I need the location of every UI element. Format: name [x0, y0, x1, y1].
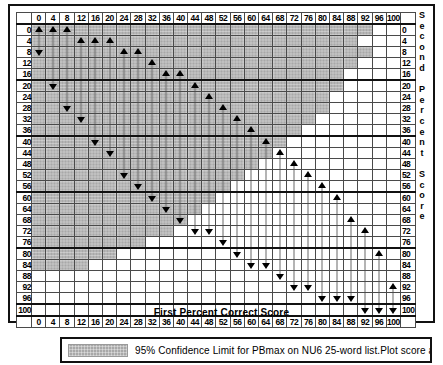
matrix-cell [344, 293, 358, 305]
matrix-cell [74, 36, 88, 47]
marker-stem [152, 170, 153, 180]
axis-title-char: r [415, 105, 429, 116]
matrix-cell [273, 271, 287, 282]
marker-stem [123, 69, 124, 79]
matrix-plot: 0481216202428323640444852566064687276808… [16, 12, 416, 328]
column-tick-32: 32 [145, 13, 159, 25]
matrix-cell [358, 181, 372, 193]
legend-box: 95% Confidence Limit for PBmax on NU6 25… [60, 337, 432, 363]
matrix-cell [315, 36, 329, 47]
marker-stem [322, 249, 323, 259]
matrix-cell [173, 80, 187, 92]
matrix-cell [386, 92, 400, 103]
matrix-cell [372, 271, 386, 282]
matrix-cell [372, 237, 386, 249]
matrix-cell [244, 248, 258, 260]
matrix-cell [145, 215, 159, 226]
matrix-cell [102, 159, 116, 170]
matrix-cell [329, 92, 343, 103]
marker-stem [137, 103, 138, 113]
matrix-cell [244, 215, 258, 226]
matrix-cell [74, 47, 88, 58]
matrix-cell [60, 204, 74, 215]
axis-title-char [415, 158, 429, 169]
matrix-cell [173, 260, 187, 271]
matrix-cell [287, 80, 301, 92]
row-tick-right-4: 4 [400, 36, 415, 47]
upper-limit-marker-icon [148, 59, 156, 65]
row-tick-right-36: 36 [400, 125, 415, 137]
matrix-cell [230, 237, 244, 249]
matrix-cell [287, 103, 301, 114]
marker-stem [166, 125, 167, 135]
marker-stem [52, 47, 53, 57]
matrix-cell [74, 69, 88, 81]
marker-stem [194, 137, 195, 147]
matrix-cell [315, 114, 329, 125]
matrix-cell [273, 136, 287, 148]
upper-limit-marker-icon [233, 115, 241, 121]
marker-stem [251, 170, 252, 180]
marker-stem [95, 92, 96, 102]
matrix-cell [88, 181, 102, 193]
matrix-row: 8484 [17, 260, 416, 271]
row-tick-left-36: 36 [17, 125, 32, 137]
marker-stem [336, 204, 337, 214]
matrix-cell [315, 271, 329, 282]
matrix-cell [145, 47, 159, 58]
marker-stem [152, 114, 153, 124]
matrix-cell [46, 260, 60, 271]
matrix-cell [131, 248, 145, 260]
matrix-cell [32, 92, 46, 103]
matrix-cell [188, 293, 202, 305]
axis-title-char: e [415, 95, 429, 106]
column-tick-24: 24 [117, 13, 131, 25]
matrix-cell [159, 148, 173, 159]
matrix-cell [88, 114, 102, 125]
matrix-cell [60, 80, 74, 92]
matrix-cell [216, 248, 230, 260]
matrix-cell [372, 92, 386, 103]
matrix-cell [344, 125, 358, 137]
x-axis-title: First Percent Correct Score [10, 307, 433, 318]
matrix-cell [159, 170, 173, 181]
matrix-cell [216, 103, 230, 114]
matrix-cell [230, 36, 244, 47]
matrix-cell [287, 282, 301, 293]
marker-stem [308, 181, 309, 191]
matrix-cell [46, 47, 60, 58]
marker-stem [379, 271, 380, 281]
matrix-cell [145, 204, 159, 215]
marker-stem [166, 159, 167, 169]
matrix-cell [259, 92, 273, 103]
matrix-cell [301, 159, 315, 170]
matrix-cell [60, 215, 74, 226]
matrix-cell [32, 36, 46, 47]
matrix-row: 9696 [17, 293, 416, 305]
matrix-cell [159, 114, 173, 125]
matrix-cell [301, 148, 315, 159]
marker-stem [251, 215, 252, 225]
axis-title-char: n [415, 52, 429, 63]
matrix-cell [230, 148, 244, 159]
matrix-cell [273, 125, 287, 137]
lower-limit-marker-icon [276, 274, 284, 280]
matrix-cell [74, 170, 88, 181]
matrix-cell [259, 47, 273, 58]
marker-stem [66, 92, 67, 102]
matrix-cell [273, 47, 287, 58]
matrix-cell [88, 148, 102, 159]
marker-stem [166, 103, 167, 113]
column-tick-28: 28 [131, 13, 145, 25]
matrix-cell [102, 47, 116, 58]
marker-stem [265, 226, 266, 236]
matrix-cell [145, 248, 159, 260]
matrix-cell [216, 24, 230, 36]
matrix-cell [32, 204, 46, 215]
marker-stem [336, 249, 337, 259]
marker-stem [81, 47, 82, 57]
matrix-cell [88, 80, 102, 92]
matrix-cell [259, 271, 273, 282]
matrix-cell [230, 24, 244, 36]
axis-title-char: e [415, 127, 429, 138]
